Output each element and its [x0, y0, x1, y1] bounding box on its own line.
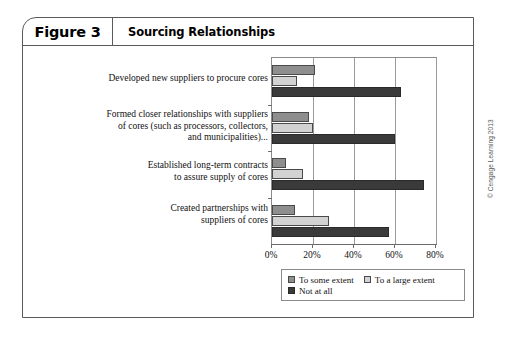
bar-0-2: [272, 87, 401, 97]
category-label-0: Developed new suppliers to procure cores: [33, 73, 268, 85]
x-tick-mark: [353, 244, 354, 248]
figure-number-cell: Figure 3: [23, 18, 113, 45]
category-label-line: to assure supply of cores: [174, 172, 268, 182]
bar-1-0: [272, 112, 309, 122]
gridline-80%: [436, 58, 437, 244]
bar-2-2: [272, 180, 424, 190]
bar-2-0: [272, 158, 286, 168]
x-tick-label: 20%: [303, 250, 320, 260]
x-axis-line: [271, 244, 437, 245]
category-label-1: Formed closer relationships with supplie…: [33, 109, 268, 144]
category-label-3: Created partnerships withsuppliers of co…: [33, 203, 268, 226]
bar-3-1: [272, 216, 329, 226]
bar-2-1: [272, 169, 303, 179]
legend-item-not-at-all: Not at all: [288, 286, 333, 296]
x-tick-label: 80%: [426, 250, 443, 260]
category-axis-labels: Developed new suppliers to procure cores…: [33, 61, 268, 243]
category-label-line: Created partnerships with: [170, 203, 268, 213]
category-label-line: suppliers of cores: [201, 215, 268, 225]
x-tick-label: 60%: [385, 250, 402, 260]
legend-label-to-some-extent: To some extent: [299, 275, 354, 285]
legend-swatch-icon-to-some-extent: [288, 276, 295, 283]
figure-frame: Figure 3 Sourcing Relationships Develope…: [22, 17, 474, 318]
x-tick-label: 0%: [265, 250, 278, 260]
legend-swatch-icon-not-at-all: [288, 287, 295, 294]
plot-area: [271, 57, 437, 245]
y-axis-tick: [268, 151, 272, 152]
category-label-2: Established long-term contractsto assure…: [33, 160, 268, 183]
figure-header: Figure 3 Sourcing Relationships: [23, 18, 473, 46]
x-tick-label: 40%: [344, 250, 361, 260]
bar-1-2: [272, 134, 395, 144]
legend-swatch-icon-to-a-large-extent: [364, 276, 371, 283]
category-label-line: and municipalities)...: [188, 132, 268, 142]
legend-row-1: To some extent To a large extent: [288, 274, 459, 285]
legend-item-to-some-extent: To some extent: [288, 275, 354, 285]
figure-title-cell: Sourcing Relationships: [113, 18, 473, 45]
y-axis-tick: [268, 198, 272, 199]
x-tick-mark: [435, 244, 436, 248]
bar-3-0: [272, 205, 295, 215]
legend-item-to-a-large-extent: To a large extent: [364, 275, 435, 285]
category-label-line: of cores (such as processors, collectors…: [118, 121, 268, 131]
category-label-line: Established long-term contracts: [148, 160, 268, 170]
legend-label-to-a-large-extent: To a large extent: [375, 275, 435, 285]
chart-legend: To some extent To a large extent Not at …: [281, 269, 465, 301]
figure-title: Sourcing Relationships: [128, 25, 275, 39]
category-label-line: Developed new suppliers to procure cores: [108, 73, 268, 83]
x-tick-mark: [271, 244, 272, 248]
copyright-note: © Cengage Learning 2013: [487, 119, 494, 198]
legend-row-2: Not at all: [288, 285, 459, 296]
bar-0-1: [272, 76, 297, 86]
bar-1-1: [272, 123, 313, 133]
chart-body: Developed new suppliers to procure cores…: [23, 47, 475, 318]
category-label-line: Formed closer relationships with supplie…: [107, 109, 268, 119]
legend-label-not-at-all: Not at all: [299, 286, 333, 296]
bar-0-0: [272, 65, 315, 75]
bar-3-2: [272, 227, 389, 237]
y-axis-tick: [268, 105, 272, 106]
gridline-60%: [395, 58, 396, 244]
x-tick-mark: [394, 244, 395, 248]
gridline-40%: [354, 58, 355, 244]
x-tick-mark: [312, 244, 313, 248]
figure-number-label: Figure 3: [34, 24, 100, 40]
